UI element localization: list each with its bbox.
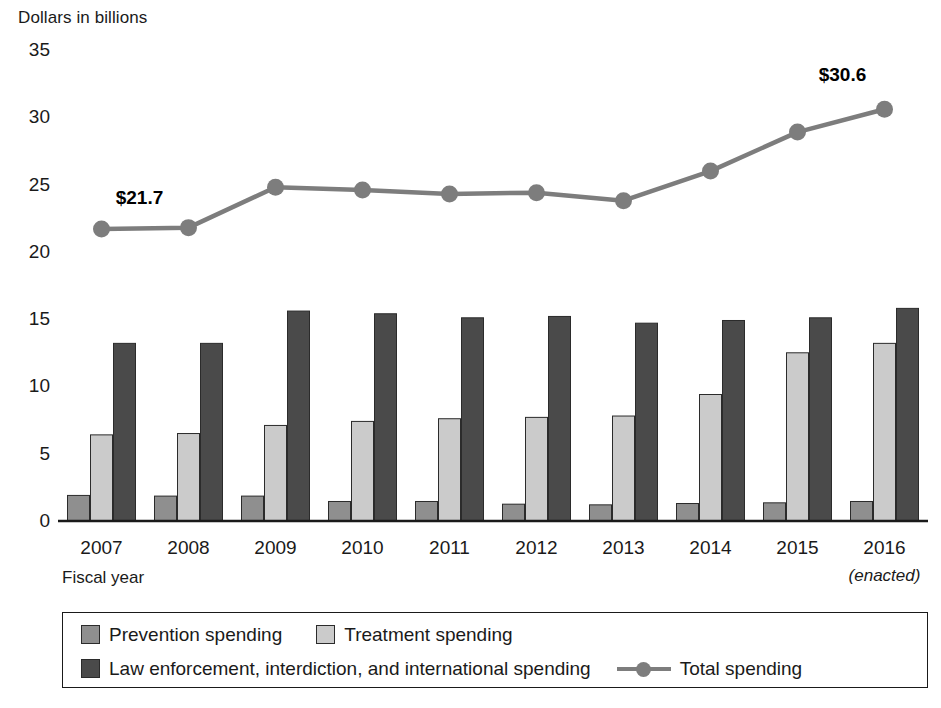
bar-prevention-2011 <box>416 501 438 521</box>
bar-treatment-2015 <box>787 353 809 521</box>
x-tick-label-2012: 2012 <box>497 538 577 557</box>
legend-item-prevention-spending[interactable]: Prevention spending <box>81 625 282 644</box>
bar-prevention-2008 <box>155 496 177 521</box>
x-tick-label-2014: 2014 <box>671 538 751 557</box>
x-tick-label-2010: 2010 <box>323 538 403 557</box>
legend-item-treatment-spending[interactable]: Treatment spending <box>316 625 512 644</box>
line-marker-2013 <box>615 192 632 209</box>
bar-law-2007 <box>114 343 136 521</box>
bar-prevention-2014 <box>677 504 699 521</box>
legend-item-law-enforcement-spending[interactable]: Law enforcement, interdiction, and inter… <box>81 659 591 678</box>
line-marker-2014 <box>702 163 719 180</box>
x-axis-title: Fiscal year <box>62 568 144 588</box>
bar-treatment-2014 <box>700 395 722 522</box>
bar-prevention-2016 <box>851 501 873 521</box>
bar-prevention-2010 <box>329 501 351 521</box>
x-tick-note-2016: (enacted) <box>830 566 940 586</box>
bar-prevention-2007 <box>68 495 90 521</box>
bar-law-2010 <box>375 314 397 521</box>
bar-law-2016 <box>897 308 919 521</box>
x-tick-label-2007: 2007 <box>62 538 142 557</box>
bar-law-2015 <box>810 318 832 521</box>
x-tick-label-2011: 2011 <box>410 538 490 557</box>
x-tick-label-2009: 2009 <box>236 538 316 557</box>
chart-legend: Prevention spending Treatment spending L… <box>62 612 928 688</box>
x-tick-label-2015: 2015 <box>758 538 838 557</box>
bar-treatment-2012 <box>526 417 548 521</box>
bar-treatment-2008 <box>178 434 200 521</box>
legend-swatch-icon-law-enforcement <box>81 659 100 678</box>
legend-label-prevention: Prevention spending <box>109 625 282 644</box>
legend-label-total: Total spending <box>680 659 803 678</box>
bar-law-2011 <box>462 318 484 521</box>
line-marker-2015 <box>789 124 806 141</box>
x-tick-label-2016: 2016 <box>845 538 925 557</box>
bar-treatment-2016 <box>874 343 896 521</box>
line-marker-2016 <box>876 101 893 118</box>
bar-law-2009 <box>288 311 310 521</box>
bar-treatment-2007 <box>91 435 113 521</box>
bar-law-2014 <box>723 320 745 521</box>
bar-treatment-2011 <box>439 419 461 521</box>
bar-prevention-2012 <box>503 504 525 521</box>
line-marker-2011 <box>441 185 458 202</box>
plot-area <box>0 0 941 708</box>
legend-line-marker-icon-total <box>617 659 671 678</box>
line-marker-2009 <box>267 179 284 196</box>
x-tick-label-2008: 2008 <box>149 538 229 557</box>
data-label-2016: $30.6 <box>793 64 893 86</box>
line-marker-2012 <box>528 184 545 201</box>
bar-treatment-2010 <box>352 421 374 521</box>
x-tick-label-2013: 2013 <box>584 538 664 557</box>
line-marker-2008 <box>180 219 197 236</box>
bar-law-2012 <box>549 316 571 521</box>
line-marker-2007 <box>93 220 110 237</box>
bar-law-2008 <box>201 343 223 521</box>
legend-item-total-spending[interactable]: Total spending <box>617 659 803 678</box>
bar-prevention-2009 <box>242 496 264 521</box>
legend-label-treatment: Treatment spending <box>344 625 512 644</box>
drug-control-spending-chart: Dollars in billions 05101520253035 20072… <box>0 0 941 708</box>
bar-prevention-2013 <box>590 505 612 521</box>
line-marker-2010 <box>354 181 371 198</box>
legend-swatch-icon-prevention <box>81 625 100 644</box>
total-spending-line <box>102 109 885 229</box>
legend-swatch-icon-treatment <box>316 625 335 644</box>
data-label-2007: $21.7 <box>90 187 190 209</box>
legend-row-bottom: Law enforcement, interdiction, and inter… <box>63 651 927 685</box>
bar-treatment-2009 <box>265 425 287 521</box>
bar-prevention-2015 <box>764 503 786 521</box>
legend-row-top: Prevention spending Treatment spending <box>63 617 927 651</box>
bar-law-2013 <box>636 323 658 521</box>
legend-label-law-enforcement: Law enforcement, interdiction, and inter… <box>109 659 591 678</box>
bar-treatment-2013 <box>613 416 635 521</box>
